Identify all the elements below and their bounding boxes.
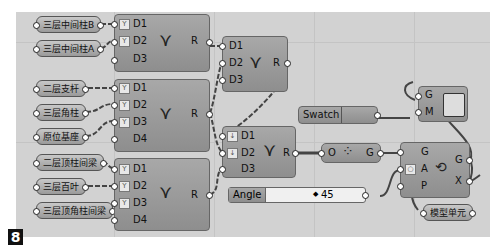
param-third-floor-corner-column[interactable]: 三层角柱 xyxy=(36,104,86,121)
port-d2: D2 xyxy=(133,99,147,110)
merge-node-5[interactable]: ↓ D1 ↓ D2 D3 ⋎ R xyxy=(222,126,296,178)
port-o: O xyxy=(328,147,336,158)
swatch-color[interactable] xyxy=(341,107,342,123)
flatten-icon: Y xyxy=(119,181,130,192)
slider-grip-icon[interactable]: ◆ xyxy=(313,190,318,198)
output-grip[interactable] xyxy=(206,39,213,46)
param-second-floor-top-beam[interactable]: 二层顶柱间梁 xyxy=(36,154,104,171)
port-g: G xyxy=(425,89,433,100)
port-a: A xyxy=(421,163,428,174)
reparameterize-icon: ○ xyxy=(405,164,416,175)
output-grip[interactable] xyxy=(206,192,213,199)
param-model-unit[interactable]: 模型单元 xyxy=(423,204,473,221)
input-grip[interactable] xyxy=(318,150,325,157)
param-third-floor-middle-column-b[interactable]: 三层中间柱B xyxy=(36,16,101,33)
input-grip[interactable] xyxy=(111,102,118,109)
port-d2: D2 xyxy=(241,147,255,158)
output-grip[interactable] xyxy=(292,150,299,157)
port-d1: D1 xyxy=(133,82,147,93)
input-grip[interactable] xyxy=(219,43,226,50)
graft-icon: ↓ xyxy=(227,148,238,159)
custom-preview-node[interactable]: G M xyxy=(418,86,468,122)
rotate-icon: ⟲ xyxy=(435,159,447,175)
merge-icon: ⋎ xyxy=(159,102,172,123)
output-grip[interactable] xyxy=(377,150,384,157)
port-r: R xyxy=(283,147,290,158)
flatten-icon: Y xyxy=(119,100,130,111)
merge-icon: ⋎ xyxy=(159,181,172,202)
angle-slider[interactable]: Angle ◆ 45 xyxy=(228,187,366,203)
output-grip[interactable] xyxy=(206,111,213,118)
slider-label: Angle xyxy=(233,189,261,200)
port-r: R xyxy=(191,35,198,46)
swatch-label: Swatch xyxy=(303,109,339,120)
merge-node-3[interactable]: Y D1 Y D2 Y D3 D4 ⋎ R xyxy=(114,158,210,231)
input-grip[interactable] xyxy=(111,183,118,190)
input-grip[interactable] xyxy=(397,183,404,190)
port-d3: D3 xyxy=(133,197,147,208)
input-grip[interactable] xyxy=(111,57,118,64)
flatten-icon: Y xyxy=(119,83,130,94)
input-grip[interactable] xyxy=(111,166,118,173)
param-original-base[interactable]: 原位基座 xyxy=(36,128,86,145)
param-third-floor-louver[interactable]: 三层百叶 xyxy=(36,178,86,195)
orient-node[interactable]: G ○ A P ⟲ G X xyxy=(400,142,470,198)
flatten-icon: Y xyxy=(119,36,130,47)
flatten-icon: Y xyxy=(119,198,130,209)
port-d3: D3 xyxy=(133,116,147,127)
port-d3: D3 xyxy=(229,74,243,85)
slider-value: 45 xyxy=(321,189,334,200)
port-r: R xyxy=(191,189,198,200)
group-icon: ⁘ xyxy=(342,143,354,159)
port-r: R xyxy=(273,57,280,68)
output-grip[interactable] xyxy=(362,192,369,199)
swatch-param[interactable]: Swatch xyxy=(298,106,378,124)
port-d2: D2 xyxy=(229,57,243,68)
output-grip[interactable] xyxy=(284,60,291,67)
input-grip[interactable] xyxy=(415,93,422,100)
port-d1: D1 xyxy=(133,163,147,174)
input-grip[interactable] xyxy=(397,166,404,173)
input-grip[interactable] xyxy=(111,85,118,92)
input-grip[interactable] xyxy=(111,217,118,224)
port-d2: D2 xyxy=(133,180,147,191)
input-grip[interactable] xyxy=(111,21,118,28)
preview-icon xyxy=(443,93,465,117)
input-grip[interactable] xyxy=(219,166,226,173)
port-g-out: G xyxy=(455,154,463,165)
flatten-icon: Y xyxy=(119,164,130,175)
param-third-floor-top-corner-beam[interactable]: 三层顶角柱间梁 xyxy=(36,202,113,219)
merge-icon: ⋎ xyxy=(159,29,172,50)
port-g: G xyxy=(366,147,374,158)
merge-node-1[interactable]: Y D1 Y D2 D3 ⋎ R xyxy=(114,14,210,72)
port-r: R xyxy=(191,108,198,119)
input-grip[interactable] xyxy=(219,60,226,67)
port-d4: D4 xyxy=(133,133,147,144)
param-second-floor-strut[interactable]: 二层支杆 xyxy=(36,80,86,97)
port-p: P xyxy=(421,180,427,191)
merge-node-4[interactable]: D1 D2 D3 ⋎ R xyxy=(222,36,288,92)
output-grip[interactable] xyxy=(466,178,473,185)
port-d1: D1 xyxy=(133,18,147,29)
merge-node-2[interactable]: Y D1 Y D2 Y D3 D4 ⋎ R xyxy=(114,79,210,152)
merge-icon: ⋎ xyxy=(249,51,262,72)
input-grip[interactable] xyxy=(219,77,226,84)
flatten-icon: Y xyxy=(119,117,130,128)
input-grip[interactable] xyxy=(219,133,226,140)
input-grip[interactable] xyxy=(111,200,118,207)
param-third-floor-middle-column-a[interactable]: 三层中间柱A xyxy=(36,40,101,57)
input-grip[interactable] xyxy=(111,136,118,143)
merge-icon: ⋎ xyxy=(263,139,276,160)
input-grip[interactable] xyxy=(111,39,118,46)
figure-number: 8 xyxy=(8,229,23,245)
output-grip[interactable] xyxy=(374,112,381,119)
input-grip[interactable] xyxy=(397,149,404,156)
port-d4: D4 xyxy=(133,214,147,225)
group-node[interactable]: O ⁘ G xyxy=(321,143,381,163)
port-g: G xyxy=(421,146,429,157)
input-grip[interactable] xyxy=(111,119,118,126)
input-grip[interactable] xyxy=(415,109,422,116)
port-x: X xyxy=(455,175,462,186)
input-grip[interactable] xyxy=(219,150,226,157)
output-grip[interactable] xyxy=(466,157,473,164)
